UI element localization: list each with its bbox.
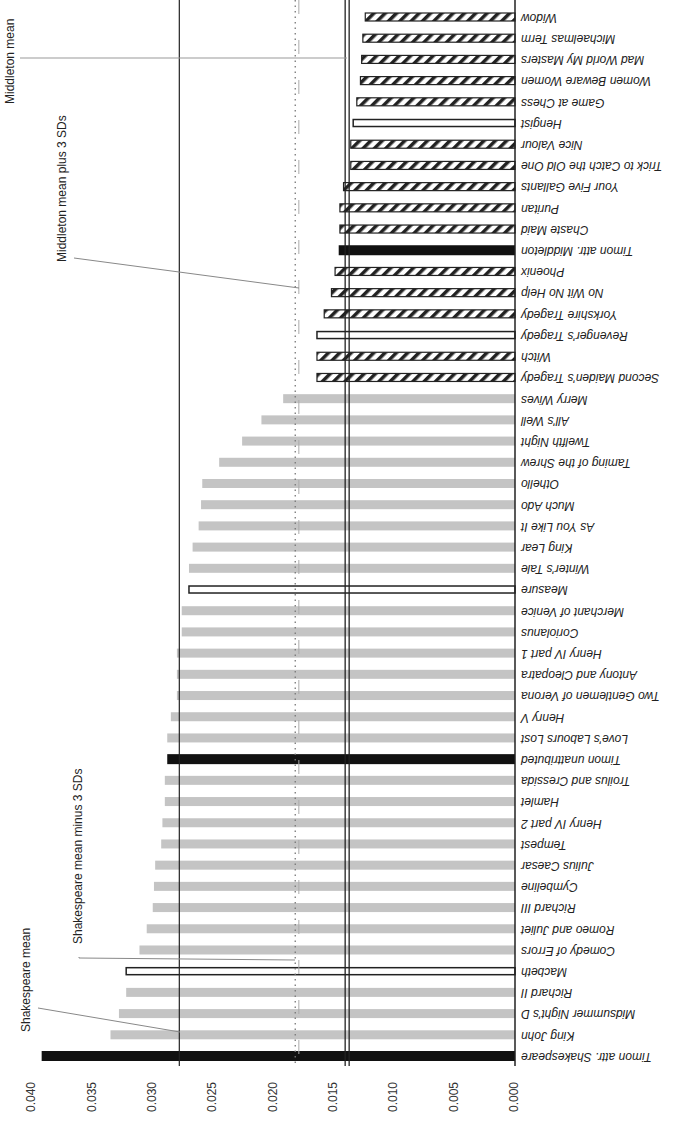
bar [177, 649, 515, 658]
bar [339, 245, 515, 255]
category-label: Richard III [520, 901, 575, 915]
bar [119, 1009, 515, 1018]
annotation-shakespeare-minus-3sd: Shakespeare mean minus 3 SDs [71, 769, 85, 944]
category-label: Henry IV part 1 [521, 647, 602, 661]
category-label: Comedy of Errors [521, 944, 615, 958]
bar [161, 839, 515, 848]
category-label: Timon unattributed [521, 753, 621, 767]
bar [351, 140, 515, 148]
tick-label: 0.005 [447, 1082, 461, 1112]
bar [324, 310, 515, 318]
tick-label: 0.010 [386, 1082, 400, 1112]
bar [193, 543, 515, 552]
bar [363, 34, 515, 42]
chart-canvas: Timon attr. ShakespeareKing JohnMidsumme… [0, 0, 694, 1128]
category-label: Coriolanus [521, 626, 578, 640]
bar [126, 968, 515, 975]
bar [283, 394, 515, 403]
annotation-middleton-plus-3sd: Middleton mean plus 3 SDs [55, 115, 69, 262]
category-label: Othello [521, 477, 559, 491]
bar [182, 606, 515, 615]
bar [155, 861, 515, 870]
annotation-shakespeare-mean: Shakespeare mean [19, 928, 33, 1032]
bar [351, 161, 515, 169]
category-label: Yorkshire Tragedy [520, 308, 617, 322]
bar [335, 267, 515, 275]
bar [189, 586, 515, 593]
bar [219, 458, 515, 467]
bar [357, 98, 515, 106]
bar [331, 289, 515, 297]
category-label: Hamlet [520, 795, 559, 809]
bar [126, 988, 515, 997]
category-label: Nice Valour [520, 138, 583, 152]
bar [165, 797, 515, 806]
bar [340, 225, 515, 233]
category-label: Tempest [520, 838, 566, 852]
category-label: All's Well [521, 414, 570, 428]
category-label: Troilus and Cressida [521, 774, 630, 788]
category-label: Midsummer Night's D [521, 1007, 636, 1021]
category-label: Measure [521, 583, 568, 597]
tick-label: 0.020 [266, 1082, 280, 1112]
category-label: Second Maiden's Tragedy [520, 371, 659, 385]
category-label: Trick to Catch the Old One [521, 159, 662, 173]
tick-label: 0.025 [205, 1082, 219, 1112]
bar [139, 945, 515, 954]
bar [42, 1051, 515, 1061]
category-label: Merry Wives [521, 393, 588, 407]
category-label: Women Beware Women [521, 74, 651, 88]
bar [167, 754, 515, 764]
category-label: No Wit No Help [521, 286, 604, 300]
category-label: Michaelmas Term [521, 32, 615, 46]
tick-label: 0.000 [507, 1082, 521, 1112]
bar [177, 691, 515, 700]
category-label: Henry V [520, 711, 564, 725]
tick-label: 0.035 [85, 1082, 99, 1112]
category-label: Winter's Tale [521, 562, 590, 576]
category-label: King Lear [520, 541, 572, 555]
category-label: Taming of the Shrew [520, 456, 631, 470]
bar [154, 882, 515, 891]
tick-label: 0.015 [326, 1082, 340, 1112]
bar [110, 1030, 515, 1039]
bar [317, 332, 515, 339]
category-label: Julius Caesar [520, 859, 595, 873]
category-label: Richard II [520, 986, 572, 1000]
bar [201, 500, 515, 509]
tick-label: 0.040 [24, 1082, 38, 1112]
bars-group [42, 13, 515, 1061]
bar [147, 924, 515, 933]
bar [202, 479, 515, 488]
category-label: Timon attr. Middleton [521, 244, 633, 258]
category-label: Puritan [521, 202, 559, 216]
category-label: As You Like It [520, 520, 595, 534]
tick-label: 0.030 [145, 1082, 159, 1112]
bar [189, 564, 515, 573]
category-label: Henry IV part 2 [521, 817, 602, 831]
bar [362, 55, 515, 63]
bar [261, 415, 515, 424]
bar [182, 627, 515, 636]
category-label: Love's Labours Lost [520, 732, 628, 746]
category-label: Much Ado [521, 499, 575, 513]
bar [353, 120, 515, 127]
category-label: Merchant of Venice [521, 605, 624, 619]
bar [153, 903, 515, 912]
bar [177, 670, 515, 679]
category-label: Cymbeline [521, 880, 578, 894]
category-label: Game at Chess [521, 96, 604, 110]
category-labels: Timon attr. ShakespeareKing JohnMidsumme… [520, 11, 663, 1064]
bar [167, 733, 515, 742]
category-label: Widow [520, 11, 557, 25]
category-label: Macbeth [521, 965, 567, 979]
category-label: Revenger's Tragedy [520, 329, 628, 343]
category-label: Two Gentlemen of Verona [521, 689, 660, 703]
category-label: Your Five Gallants [521, 180, 619, 194]
category-label: King John [521, 1029, 575, 1043]
bar [171, 712, 515, 721]
bar [242, 437, 515, 446]
bar [365, 13, 515, 21]
bar [317, 352, 515, 360]
bar [360, 77, 515, 85]
